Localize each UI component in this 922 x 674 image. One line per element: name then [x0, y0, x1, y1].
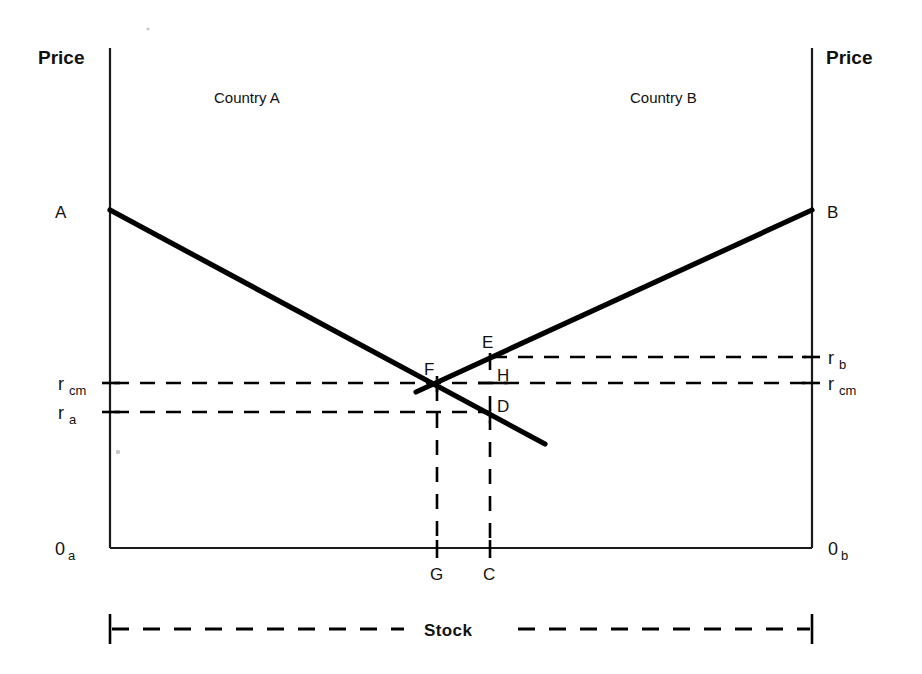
price-label-left: Price — [38, 47, 84, 68]
country-a-label: Country A — [214, 89, 280, 106]
stock-label: Stock — [424, 621, 472, 640]
origin-a-label: 0 a — [55, 539, 76, 563]
origin-a-subscript: a — [68, 548, 76, 563]
scan-speck — [116, 450, 120, 454]
rate-cm-left-subscript: cm — [69, 383, 86, 398]
curve-endpoint-a-label: A — [55, 203, 67, 222]
origin-a-symbol: 0 — [55, 539, 65, 559]
origin-b-label: 0 b — [828, 539, 848, 563]
rate-a-symbol: r — [58, 403, 64, 423]
rate-cm-right-symbol: r — [828, 374, 834, 394]
curve-endpoint-b-label: B — [827, 203, 838, 222]
point-h-label: H — [497, 366, 509, 385]
rate-a-label: r a — [58, 403, 77, 427]
point-e-label: E — [482, 333, 493, 352]
point-d-label: D — [497, 397, 509, 416]
point-g-label: G — [430, 565, 443, 584]
origin-b-subscript: b — [841, 548, 848, 563]
rate-b-symbol: r — [828, 348, 834, 368]
economics-figure: Price Price Country A Country B A B r cm… — [0, 0, 922, 674]
stock-measure-bar: Stock — [110, 614, 812, 644]
rate-cm-left-label: r cm — [58, 374, 86, 398]
country-a-schedule — [110, 210, 545, 444]
scan-speck — [146, 27, 149, 30]
rate-cm-left-symbol: r — [58, 374, 64, 394]
point-f-label: F — [424, 360, 434, 379]
rate-a-subscript: a — [69, 412, 77, 427]
diagram-canvas: Price Price Country A Country B A B r cm… — [0, 0, 922, 674]
country-b-label: Country B — [630, 89, 697, 106]
origin-b-symbol: 0 — [828, 539, 838, 559]
rate-cm-right-label: r cm — [828, 374, 856, 398]
rate-cm-right-subscript: cm — [839, 383, 856, 398]
point-c-label: C — [483, 565, 495, 584]
price-label-right: Price — [826, 47, 872, 68]
country-b-schedule — [416, 210, 812, 392]
rate-b-label: r b — [828, 348, 846, 372]
rate-b-subscript: b — [839, 357, 846, 372]
